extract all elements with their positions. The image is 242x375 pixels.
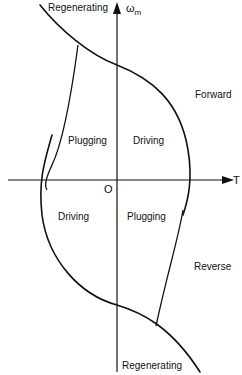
quadrant-3-label: Driving bbox=[58, 211, 89, 222]
bottom-regenerating-label: Regenerating bbox=[122, 360, 182, 371]
four-quadrant-speed-torque-diagram: ωm T O Driving Plugging Driving Plugging… bbox=[0, 0, 242, 375]
forward-label: Forward bbox=[195, 89, 232, 100]
origin-label: O bbox=[104, 183, 113, 195]
forward-characteristic-curve bbox=[40, 5, 190, 215]
reverse-characteristic-curve bbox=[41, 135, 200, 372]
speed-axis-label: ωm bbox=[126, 2, 142, 17]
reverse-plugging-boundary bbox=[156, 210, 183, 326]
quadrant-1-label: Driving bbox=[133, 135, 164, 146]
axes bbox=[8, 2, 234, 372]
forward-plugging-boundary bbox=[46, 45, 78, 190]
torque-axis-label: T bbox=[233, 174, 240, 186]
speed-axis-arrowhead bbox=[113, 2, 121, 14]
quadrant-2-label: Plugging bbox=[68, 135, 107, 146]
top-regenerating-label: Regenerating bbox=[48, 2, 108, 13]
quadrant-4-label: Plugging bbox=[127, 211, 166, 222]
reverse-label: Reverse bbox=[194, 261, 232, 272]
